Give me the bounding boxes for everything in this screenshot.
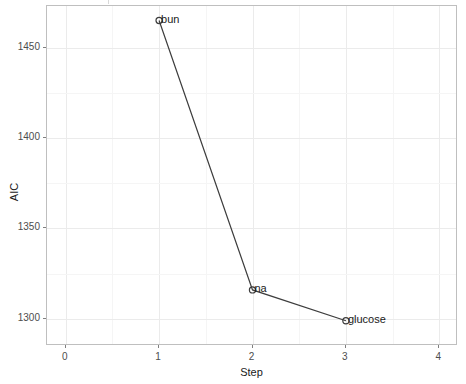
series-line (159, 21, 346, 321)
y-tick-label: 1400 (6, 131, 40, 142)
data-point-label: na (255, 282, 267, 294)
y-tick-label: 1300 (6, 312, 40, 323)
series-point-group (156, 17, 349, 323)
y-tick-label: 1450 (6, 41, 40, 52)
x-tick-label: 4 (423, 351, 453, 362)
x-tick-mark (252, 345, 253, 348)
x-tick-label: 0 (50, 351, 80, 362)
x-tick-label: 3 (330, 351, 360, 362)
y-axis-title: AIC (0, 160, 28, 224)
x-tick-mark (158, 345, 159, 348)
x-tick-mark (345, 345, 346, 348)
x-tick-label: 1 (143, 351, 173, 362)
x-tick-mark (438, 345, 439, 348)
x-tick-label: 2 (237, 351, 267, 362)
x-axis-title: Step (46, 366, 457, 378)
plot-panel: bunnaglucose (46, 5, 457, 345)
aic-step-line-chart: AIC Step 1300135014001450 01234 bunnaglu… (0, 0, 466, 384)
panel-top-tick-artifact (108, 0, 109, 4)
x-tick-mark (65, 345, 66, 348)
data-layer (47, 6, 457, 345)
data-point-label: bun (161, 13, 179, 25)
y-axis-title-label: AIC (8, 183, 20, 201)
data-point-label: glucose (348, 313, 386, 325)
y-tick-label: 1350 (6, 221, 40, 232)
